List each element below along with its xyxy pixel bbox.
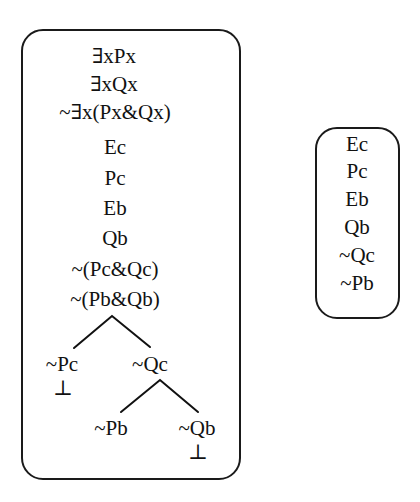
trunk-line-1: ∃xPx — [92, 46, 136, 67]
model-line-6: ~Pb — [340, 273, 374, 294]
branch-fork-2 — [121, 380, 198, 412]
branch2-right-node: ~Qb — [178, 418, 215, 439]
model-line-2: Pc — [347, 161, 368, 182]
trunk-line-6: Eb — [103, 198, 126, 219]
branch2-left-node: ~Pb — [94, 418, 128, 439]
trunk-line-4: Ec — [104, 137, 126, 158]
branch1-right-node: ~Qc — [132, 354, 168, 375]
trunk-line-9: ~(Pb&Qb) — [70, 289, 160, 310]
model-line-4: Qb — [344, 217, 370, 238]
trunk-line-5: Pc — [105, 168, 126, 189]
model-line-5: ~Qc — [339, 245, 375, 266]
closed-branch-marker: ⊥ — [53, 378, 73, 399]
trunk-line-7: Qb — [102, 228, 128, 249]
trunk-line-8: ~(Pc&Qc) — [71, 259, 158, 280]
model-line-3: Eb — [345, 189, 368, 210]
trunk-line-3: ~∃x(Px&Qx) — [59, 102, 170, 123]
closed-branch-marker: ⊥ — [188, 442, 208, 463]
branch1-left-node: ~Pc — [46, 354, 78, 375]
model-line-1: Ec — [346, 134, 368, 155]
branch-fork-1 — [74, 316, 150, 348]
trunk-line-2: ∃xQx — [90, 74, 138, 95]
